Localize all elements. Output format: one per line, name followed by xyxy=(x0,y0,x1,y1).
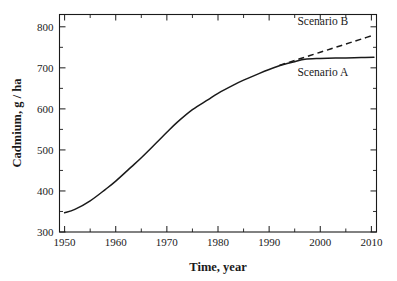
x-axis-tick-label: 2000 xyxy=(309,236,332,248)
y-axis-tick-label: 600 xyxy=(37,103,54,115)
annotation-scenario-a: Scenario A xyxy=(297,66,348,78)
x-axis-tick-label: 2010 xyxy=(360,236,383,248)
x-axis-tick-label: 1960 xyxy=(105,236,128,248)
y-axis-tick-label: 400 xyxy=(37,185,54,197)
x-axis-tick-label: 1980 xyxy=(207,236,230,248)
x-axis-title: Time, year xyxy=(189,260,247,274)
x-axis-tick-label: 1990 xyxy=(258,236,281,248)
cadmium-time-line-chart: 300400500600700800 195019601970198019902… xyxy=(0,0,397,281)
x-axis-tick-label: 1970 xyxy=(156,236,179,248)
y-axis-tick-label: 500 xyxy=(37,144,54,156)
annotation-scenario-b: Scenario B xyxy=(297,15,348,27)
y-axis-tick-label: 700 xyxy=(37,62,54,74)
y-axis-tick-label: 300 xyxy=(37,226,54,238)
x-axis-tick-label: 1950 xyxy=(54,236,77,248)
y-axis-tick-label: 800 xyxy=(37,21,54,33)
y-axis-title: Cadmium, g / ha xyxy=(10,78,24,168)
chart-figure: 300400500600700800 195019601970198019902… xyxy=(0,0,397,281)
